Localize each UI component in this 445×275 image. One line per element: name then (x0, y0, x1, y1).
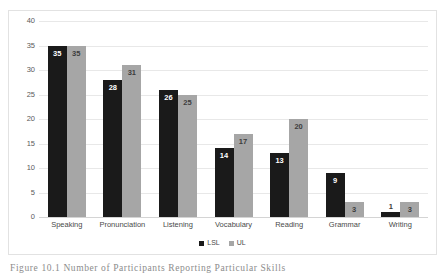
bar-lsl-pronunciation[interactable]: 28 (103, 80, 122, 217)
bar-value-label: 28 (109, 83, 117, 92)
legend-item-ul[interactable]: UL (229, 239, 246, 247)
bar-value-label: 9 (333, 176, 337, 185)
bar-value-label: 14 (220, 151, 228, 160)
bar-group: 2625 (150, 21, 206, 217)
bar-value-label: 3 (408, 205, 412, 214)
bar-ul-writing[interactable]: 3 (400, 202, 419, 217)
legend-label: LSL (207, 239, 219, 247)
chart-legend: LSLUL (9, 239, 436, 247)
legend-swatch-icon (199, 241, 204, 246)
bar-value-label: 20 (294, 122, 302, 131)
bar-ul-vocabulary[interactable]: 17 (234, 134, 253, 217)
bar-value-label: 35 (72, 49, 80, 58)
bar-value-label: 17 (239, 137, 247, 146)
y-axis-tick-label: 25 (11, 91, 35, 99)
legend-item-lsl[interactable]: LSL (199, 239, 219, 247)
bar-lsl-speaking[interactable]: 35 (48, 46, 67, 218)
legend-label: UL (237, 239, 246, 247)
y-axis-tick-label: 10 (11, 164, 35, 172)
bar-series-group: 353528312625141713209313 (39, 21, 428, 217)
chart-frame: 353528312625141713209313 051015202530354… (8, 10, 437, 255)
y-axis-tick-label: 5 (11, 189, 35, 197)
bar-ul-reading[interactable]: 20 (289, 119, 308, 217)
figure-caption: Figure 10.1 Number of Participants Repor… (10, 262, 430, 274)
y-axis-tick-label: 15 (11, 140, 35, 148)
x-axis-label-reading: Reading (261, 219, 317, 233)
legend-swatch-icon (229, 241, 234, 246)
bar-lsl-grammar[interactable]: 9 (326, 173, 345, 217)
bar-group: 1417 (206, 21, 262, 217)
plot-area: 353528312625141713209313 (39, 21, 428, 217)
gridline (39, 217, 428, 218)
bar-group: 93 (317, 21, 373, 217)
bar-ul-grammar[interactable]: 3 (345, 202, 364, 217)
bar-value-label: 1 (389, 202, 393, 211)
x-axis-label-listening: Listening (150, 219, 206, 233)
x-axis-label-speaking: Speaking (39, 219, 95, 233)
x-axis-label-pronunciation: Pronunciation (95, 219, 151, 233)
y-axis-tick-label: 0 (11, 213, 35, 221)
bar-value-label: 35 (53, 49, 61, 58)
y-axis-tick-label: 40 (11, 17, 35, 25)
y-axis-tick-label: 35 (11, 42, 35, 50)
bar-lsl-listening[interactable]: 26 (159, 90, 178, 217)
y-axis-tick-label: 20 (11, 115, 35, 123)
bar-value-label: 3 (352, 205, 356, 214)
bar-value-label: 31 (128, 68, 136, 77)
bar-lsl-reading[interactable]: 13 (270, 153, 289, 217)
x-axis-label-grammar: Grammar (317, 219, 373, 233)
figure-container: 353528312625141713209313 051015202530354… (0, 0, 445, 275)
bar-value-label: 26 (164, 93, 172, 102)
bar-group: 13 (372, 21, 428, 217)
y-axis-tick-label: 30 (11, 66, 35, 74)
x-axis-category-labels: SpeakingPronunciationListeningVocabulary… (39, 219, 428, 233)
bar-group: 1320 (261, 21, 317, 217)
x-axis-label-writing: Writing (372, 219, 428, 233)
bar-group: 2831 (95, 21, 151, 217)
x-axis-label-vocabulary: Vocabulary (206, 219, 262, 233)
bar-group: 3535 (39, 21, 95, 217)
bar-lsl-vocabulary[interactable]: 14 (215, 148, 234, 217)
bar-lsl-writing[interactable]: 1 (381, 212, 400, 217)
bar-ul-speaking[interactable]: 35 (67, 46, 86, 218)
bar-value-label: 13 (275, 156, 283, 165)
bar-ul-listening[interactable]: 25 (178, 95, 197, 218)
bar-ul-pronunciation[interactable]: 31 (122, 65, 141, 217)
bar-value-label: 25 (183, 98, 191, 107)
